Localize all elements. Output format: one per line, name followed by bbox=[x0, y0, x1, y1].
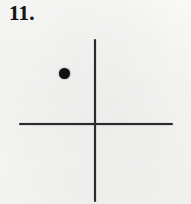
plotted-point-marker bbox=[59, 68, 70, 79]
y-axis-line bbox=[94, 39, 96, 202]
coordinate-axes bbox=[0, 0, 191, 204]
x-axis-line bbox=[19, 123, 173, 125]
figure-canvas: 11. bbox=[0, 0, 191, 204]
